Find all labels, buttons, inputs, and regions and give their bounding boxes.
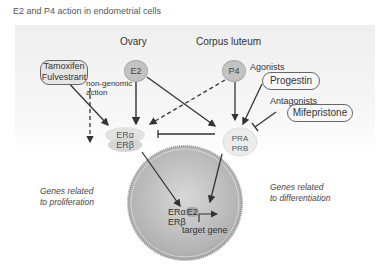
ovary-label: Ovary xyxy=(120,36,147,47)
agonists-label: Agonists xyxy=(250,62,285,72)
differentiation-genes-label: Genes related to differentiation xyxy=(270,182,330,204)
er-receptor: ERα ERβ xyxy=(112,130,138,150)
pr-receptor: PRA PRB xyxy=(226,134,254,154)
nucleus-er-complex: ERαE2 ERβ xyxy=(168,207,199,227)
target-gene-label: target gene xyxy=(182,225,228,235)
corpus-luteum-label: Corpus luteum xyxy=(196,36,261,47)
mifepristone-box: Mifepristone xyxy=(287,104,353,122)
progestin-box: Progestin xyxy=(262,72,320,90)
p4-hormone: P4 xyxy=(222,60,246,82)
tamoxifen-fulvestrant-box: Tamoxifen Fulvestrant xyxy=(40,60,88,85)
proliferation-genes-label: Genes related to proliferation xyxy=(40,186,94,208)
nucleus xyxy=(128,146,242,260)
non-genomic-action-label: non-genomic action xyxy=(86,79,132,97)
nucleus-e2: E2 xyxy=(186,207,199,217)
